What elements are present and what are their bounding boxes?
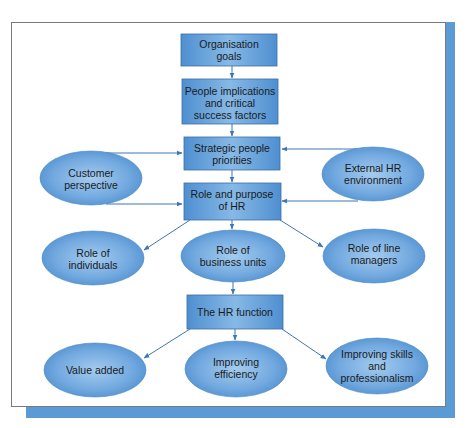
node-external-hr-environment: External HRenvironment [322, 147, 424, 201]
node-role-line-managers: Role of linemanagers [323, 229, 425, 283]
svg-text:Role of linemanagers: Role of linemanagers [348, 242, 401, 266]
svg-text:Customerperspective: Customerperspective [64, 167, 118, 191]
hr-strategy-diagram: Organisationgoals People implicationsand… [0, 0, 466, 428]
edge-role-to-line-managers [280, 220, 323, 247]
node-value-added: Value added [44, 343, 146, 397]
node-strategic-priorities: Strategic peoplepriorities [184, 137, 280, 170]
node-role-business-units: Role ofbusiness units [181, 230, 285, 282]
edge-hr-function-to-value-added [144, 329, 190, 358]
svg-text:External HRenvironment: External HRenvironment [344, 162, 402, 186]
svg-text:Improvingefficiency: Improvingefficiency [213, 356, 259, 380]
node-role-purpose-hr: Role and purposeof HR [184, 183, 281, 220]
svg-text:The HR function: The HR function [197, 306, 273, 318]
svg-text:Value added: Value added [66, 364, 124, 376]
node-role-individuals: Role ofindividuals [42, 231, 144, 285]
node-hr-function: The HR function [187, 295, 283, 329]
node-improving-efficiency: Improvingefficiency [185, 341, 287, 397]
node-organisation-goals: Organisationgoals [181, 34, 277, 66]
edge-role-to-individuals [144, 220, 190, 250]
edge-hr-function-to-skills [282, 329, 326, 359]
node-people-implications: People implicationsand criticalsuccess f… [182, 79, 278, 124]
node-customer-perspective: Customerperspective [40, 151, 142, 205]
node-improving-skills: Improving skillsandprofessionalism [326, 338, 428, 394]
